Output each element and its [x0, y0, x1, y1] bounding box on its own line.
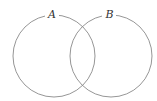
venn-diagram: A B	[0, 0, 157, 101]
set-b-circle	[70, 15, 152, 97]
set-a-label: A	[47, 8, 56, 21]
set-b-label: B	[104, 8, 113, 21]
set-a-circle	[13, 15, 95, 97]
